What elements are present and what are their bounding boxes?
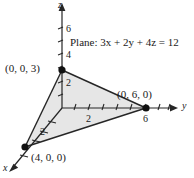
y-axis-arrowhead	[170, 105, 178, 112]
point-y-intercept	[142, 104, 149, 111]
point-x-intercept	[21, 143, 28, 150]
y-tick-label-2: 2	[86, 114, 91, 124]
label-point-z-intercept: (0, 0, 3)	[5, 63, 40, 74]
y-tick-label-6: 6	[143, 114, 148, 124]
z-tick-label-6: 6	[66, 24, 71, 34]
z-tick-label-2: 2	[66, 78, 71, 88]
plane-equation-annotation: Plane: 3x + 2y + 4z = 12	[70, 37, 179, 48]
z-tick-label-4: 4	[66, 50, 71, 60]
x-axis-label: x	[3, 163, 7, 173]
y-axis-label: y	[182, 101, 186, 111]
plane-intercept-figure: z y x 6 4 2 2 6 2 (0, 0, 3) (0, 6, 0) (4…	[0, 0, 194, 178]
label-point-y-intercept: (0, 6, 0)	[117, 89, 152, 100]
label-point-x-intercept: (4, 0, 0)	[31, 152, 66, 163]
coordinate-axes-drawing	[0, 0, 194, 178]
point-z-intercept	[58, 66, 65, 73]
z-axis-label: z	[58, 0, 62, 10]
x-axis-arrowhead	[9, 164, 18, 172]
x-tick-label-2: 2	[40, 127, 45, 137]
